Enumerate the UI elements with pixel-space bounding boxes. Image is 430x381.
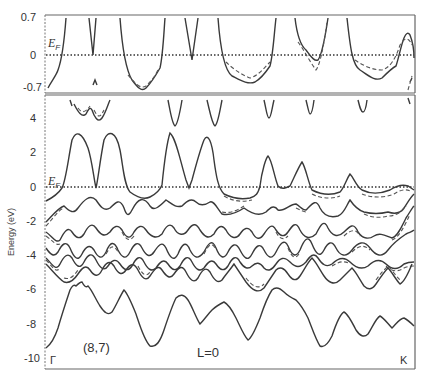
top-ytick-neg0.7: -0.7 xyxy=(23,81,42,93)
lowest-valence-band xyxy=(46,282,414,348)
ytick-neg8: -8 xyxy=(26,318,36,330)
conduction-band-fragments xyxy=(70,98,410,126)
ytick-neg10: -10 xyxy=(24,352,40,364)
band-structure-figure: 0.7 0 -0.7 EF Energy (eV) 4 2 0 -2 -4 -6… xyxy=(0,0,430,381)
ytick-0: 0 xyxy=(30,181,36,193)
top-band-dashed xyxy=(128,22,412,90)
valence-band-2 xyxy=(46,206,414,241)
k-point-label: K xyxy=(400,354,408,366)
gamma-point-label: Γ xyxy=(50,354,56,366)
top-ytick-0.7: 0.7 xyxy=(21,11,36,23)
valence-band-1-dashed xyxy=(46,206,406,226)
band-near-fermi xyxy=(46,133,414,201)
valence-band-5-dashed xyxy=(64,266,400,287)
chirality-label: (8,7) xyxy=(83,340,110,355)
ytick-neg2: -2 xyxy=(26,215,36,227)
top-panel: 0.7 0 -0.7 EF xyxy=(21,11,415,93)
top-band-solid xyxy=(48,18,414,90)
ytick-2: 2 xyxy=(30,146,36,158)
y-axis-label: Energy (eV) xyxy=(6,208,16,256)
valence-band-2-dashed xyxy=(46,214,410,244)
ytick-4: 4 xyxy=(30,112,36,124)
top-ytick-0: 0 xyxy=(30,49,36,61)
top-fermi-label: EF xyxy=(47,36,61,52)
ytick-neg4: -4 xyxy=(26,249,36,261)
length-label: L=0 xyxy=(197,345,219,360)
ytick-neg6: -6 xyxy=(26,283,36,295)
top-band-fragment xyxy=(93,80,97,85)
bottom-panel: Energy (eV) 4 2 0 -2 -4 -6 -8 -10 EF (8,… xyxy=(6,95,415,369)
valence-band-1 xyxy=(46,194,414,222)
